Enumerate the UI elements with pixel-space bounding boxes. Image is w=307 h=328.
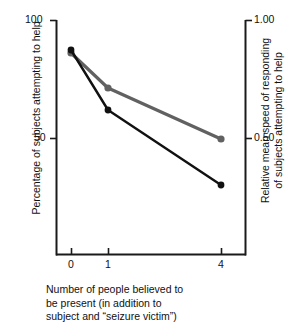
y-axis-left-title: Percentage of subjects attempting to hel… [30, 20, 42, 216]
series-point-percentage-helping [105, 107, 112, 114]
x-axis-tick-label-0: 0 [68, 258, 74, 270]
series-point-relative-speed [217, 135, 224, 142]
x-axis-caption-line3: subject and “seizure victim”) [46, 310, 258, 324]
series-point-percentage-helping [68, 47, 75, 54]
x-axis-tick-label-4: 4 [218, 258, 224, 270]
x-axis-tick-label-1: 1 [105, 258, 111, 270]
series-point-relative-speed [104, 84, 111, 91]
x-axis-caption: Number of people believed to be present … [46, 283, 258, 324]
figure-container: 100 50 1.00 0.50 0 1 4 Percentage of sub… [0, 0, 307, 328]
y-axis-right-title-line1: Relative mean speed of responding [259, 16, 272, 226]
y-axis-right-title-line2: of subjects attempting to help [271, 16, 284, 226]
x-axis-caption-line1: Number of people believed to [46, 283, 258, 297]
series-point-percentage-helping [218, 182, 225, 189]
series-line-percentage-helping [71, 50, 221, 185]
series-line-relative-speed [71, 53, 221, 139]
y-axis-right-title: Relative mean speed of responding of sub… [259, 16, 284, 226]
x-axis-caption-line2: be present (in addition to [46, 297, 258, 311]
